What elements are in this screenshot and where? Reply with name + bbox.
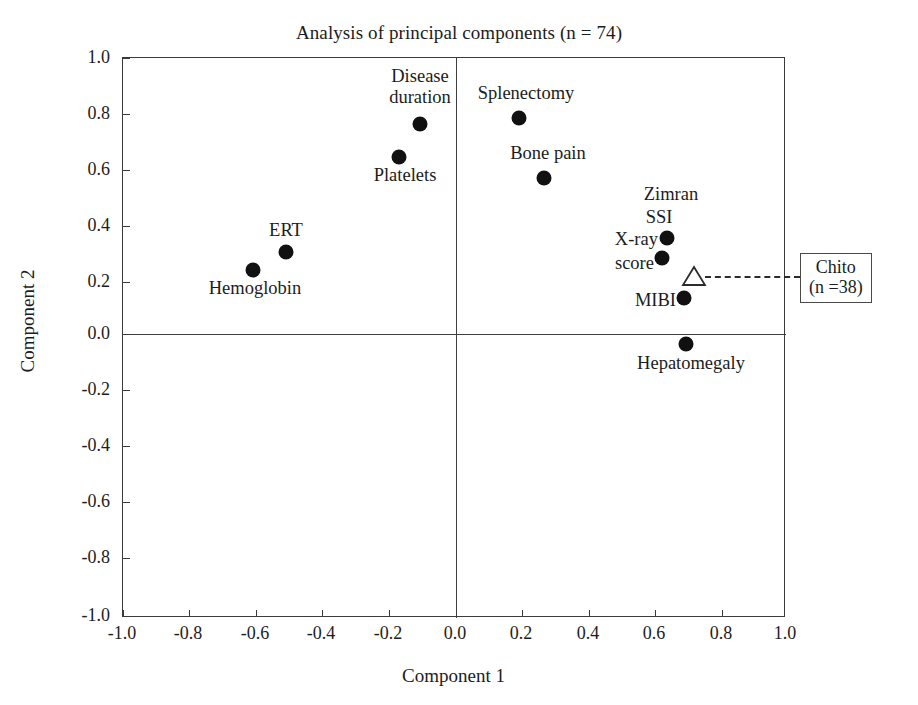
chito-annotation-line2: (n =38)	[809, 277, 863, 297]
xtick-label: 0.2	[510, 623, 533, 644]
xtick-mark	[189, 610, 190, 617]
ytick-label: -0.8	[50, 547, 110, 568]
data-point-zimran-ssi[interactable]	[660, 231, 675, 246]
point-label-bone-pain: Bone pain	[510, 144, 586, 164]
point-label-splenectomy: Splenectomy	[478, 84, 575, 104]
xtick-mark	[389, 610, 390, 617]
xtick-mark	[456, 610, 457, 617]
xtick-label: 1.0	[774, 623, 797, 644]
chito-connector-line	[705, 276, 800, 278]
data-point-ert[interactable]	[279, 245, 294, 260]
ytick-mark	[123, 170, 130, 171]
xtick-mark	[522, 610, 523, 617]
xtick-mark	[256, 610, 257, 617]
ytick-label: -0.4	[50, 435, 110, 456]
xtick-mark	[784, 610, 785, 617]
point-label-mibi: MIBI	[635, 291, 676, 311]
xtick-label: 0.6	[643, 623, 666, 644]
ytick-label: 0.0	[58, 323, 110, 344]
point-label-ert: ERT	[269, 221, 303, 241]
ytick-mark	[123, 446, 130, 447]
data-point-chito-triangle[interactable]	[681, 264, 707, 288]
xtick-mark	[589, 610, 590, 617]
ytick-mark	[123, 390, 130, 391]
xtick-label: 0.0	[444, 623, 467, 644]
ytick-label: 0.4	[58, 215, 110, 236]
xtick-label: -0.4	[307, 623, 336, 644]
xtick-label: 0.4	[577, 623, 600, 644]
xtick-label: -0.6	[241, 623, 270, 644]
ytick-mark	[123, 558, 130, 559]
data-point-bone-pain[interactable]	[537, 171, 552, 186]
data-point-hemoglobin[interactable]	[246, 263, 261, 278]
ytick-mark	[123, 58, 130, 59]
data-point-platelets[interactable]	[392, 150, 407, 165]
chito-annotation-line1: Chito	[809, 257, 863, 277]
xtick-label: -0.8	[174, 623, 203, 644]
plot-area: Hemoglobin ERT Platelets Disease duratio…	[122, 57, 785, 617]
point-label-disease-duration-line2: duration	[389, 88, 451, 108]
point-label-hemoglobin: Hemoglobin	[209, 279, 302, 299]
xtick-label: 0.8	[710, 623, 733, 644]
pca-scatter-figure: Analysis of principal components (n = 74…	[0, 0, 918, 705]
ytick-label: 1.0	[58, 47, 110, 68]
point-label-hepatomegaly: Hepatomegaly	[637, 354, 745, 374]
ytick-label: 0.2	[58, 271, 110, 292]
data-point-mibi[interactable]	[677, 291, 692, 306]
chart-title: Analysis of principal components (n = 74…	[0, 22, 918, 44]
xtick-mark	[722, 610, 723, 617]
y-axis-title: Component 2	[17, 201, 39, 441]
ytick-label: 0.6	[58, 159, 110, 180]
data-point-hepatomegaly[interactable]	[679, 337, 694, 352]
point-label-score: score	[615, 254, 654, 274]
data-point-splenectomy[interactable]	[512, 111, 527, 126]
point-label-platelets: Platelets	[374, 166, 437, 186]
ytick-mark	[123, 226, 130, 227]
x-axis-title: Component 1	[122, 665, 785, 687]
point-label-xray: X-ray	[615, 230, 658, 250]
chito-annotation-box: Chito (n =38)	[800, 253, 872, 303]
zero-line-horizontal	[123, 334, 786, 335]
xtick-mark	[322, 610, 323, 617]
xtick-label: -0.2	[374, 623, 403, 644]
xtick-mark	[655, 610, 656, 617]
ytick-mark	[123, 334, 130, 335]
point-label-zimran: Zimran	[644, 185, 698, 205]
point-label-disease-duration-line1: Disease	[391, 67, 449, 87]
zero-line-vertical	[456, 58, 457, 618]
ytick-label: -1.0	[50, 605, 110, 626]
ytick-mark	[123, 616, 130, 617]
ytick-label: -0.6	[50, 491, 110, 512]
ytick-mark	[123, 282, 130, 283]
xtick-label: -1.0	[108, 623, 137, 644]
data-point-disease-duration[interactable]	[413, 117, 428, 132]
ytick-mark	[123, 502, 130, 503]
ytick-label: -0.2	[50, 379, 110, 400]
data-point-xray-score[interactable]	[655, 251, 670, 266]
point-label-ssi: SSI	[646, 208, 673, 228]
ytick-mark	[123, 114, 130, 115]
ytick-label: 0.8	[58, 103, 110, 124]
